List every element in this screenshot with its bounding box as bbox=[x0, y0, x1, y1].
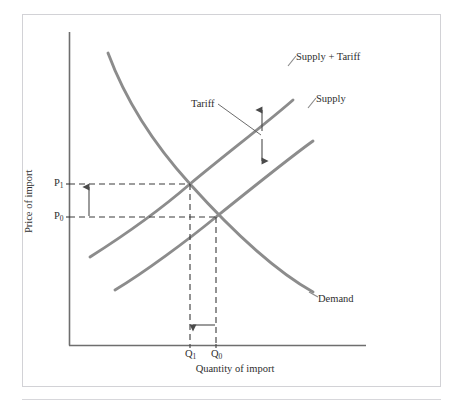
x-tick-q0-sub: 0 bbox=[219, 352, 223, 361]
x-tick-q0-base: Q bbox=[211, 348, 219, 359]
curve-label-demand: Demand bbox=[318, 294, 354, 305]
x-tick-label-q1: Q1 bbox=[185, 349, 196, 360]
leader-line-supply-tariff bbox=[288, 56, 296, 66]
y-tick-p1-sub: 1 bbox=[60, 181, 64, 190]
curve-label-supply-plus-tariff: Supply + Tariff bbox=[296, 52, 360, 63]
y-tick-p0-base: P bbox=[54, 210, 60, 221]
x-axis-title: Quantity of import bbox=[160, 364, 310, 375]
leader-line-supply bbox=[308, 98, 316, 108]
y-tick-p1-base: P bbox=[54, 177, 60, 188]
curve-demand bbox=[108, 53, 313, 292]
x-tick-q1-sub: 1 bbox=[193, 352, 197, 361]
annotation-label-tariff: Tariff bbox=[191, 99, 215, 110]
chart-canvas bbox=[0, 0, 463, 411]
y-tick-label-p0: P0 bbox=[54, 211, 64, 222]
y-axis-title: Price of import bbox=[24, 146, 35, 256]
x-tick-label-q0: Q0 bbox=[211, 349, 222, 360]
leader-line-tariff bbox=[218, 104, 261, 135]
curve-label-supply: Supply bbox=[316, 94, 346, 105]
y-tick-label-p1: P1 bbox=[54, 178, 64, 189]
figure-root: Price of import Quantity of import Suppl… bbox=[0, 0, 463, 411]
x-tick-q1-base: Q bbox=[185, 348, 193, 359]
y-tick-p0-sub: 0 bbox=[60, 214, 64, 223]
